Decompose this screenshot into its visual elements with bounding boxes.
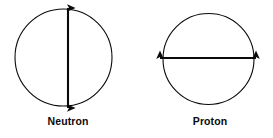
neutron-label: Neutron bbox=[8, 115, 128, 127]
particle-diagram: Neutron Proton bbox=[0, 0, 273, 138]
neutron-circle-outline bbox=[15, 9, 112, 106]
proton-label: Proton bbox=[150, 115, 270, 127]
